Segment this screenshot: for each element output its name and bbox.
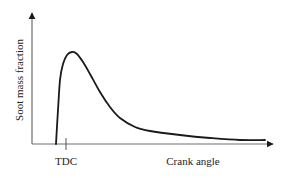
- x-axis-label: Crank angle: [166, 155, 220, 167]
- soot-chart: TDC Crank angle Soot mass fraction: [0, 0, 289, 178]
- x-tick-label-tdc: TDC: [55, 155, 77, 167]
- soot-mass-fraction-curve: [56, 52, 265, 144]
- y-axis-label: Soot mass fraction: [13, 39, 25, 121]
